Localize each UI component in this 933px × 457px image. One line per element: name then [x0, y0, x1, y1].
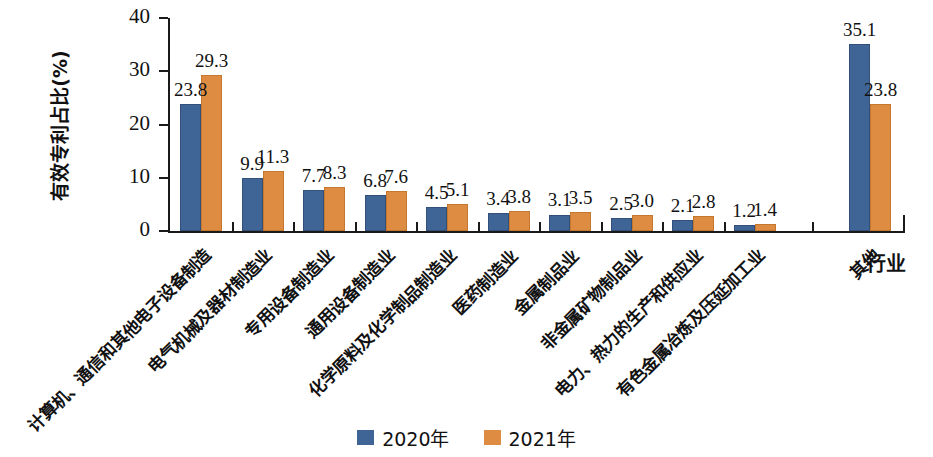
- bar-2020年-有色金属冶炼及压延加工业[interactable]: [734, 225, 755, 231]
- bar-2020年-专用设备制造业[interactable]: [303, 190, 324, 231]
- bar-2020年-医药制造业[interactable]: [488, 213, 509, 231]
- bar-2021年-其他[interactable]: [870, 104, 891, 231]
- legend-item-2020[interactable]: 2020年: [357, 424, 449, 451]
- bar-value-2021年-计算机、通信和其他电子设备制造: 29.3: [186, 51, 238, 70]
- bar-value-2021年-电气机械及器材制造业: 11.3: [247, 147, 299, 166]
- legend-label-2021: 2021年: [509, 424, 576, 451]
- bar-2020年-计算机、通信和其他电子设备制造[interactable]: [180, 104, 201, 231]
- bar-2020年-化学原料及化学制品制造业[interactable]: [426, 207, 447, 231]
- legend-swatch-blue: [357, 430, 374, 445]
- bar-2020年-金属制品业[interactable]: [549, 215, 570, 232]
- bar-2020年-电气机械及器材制造业[interactable]: [242, 178, 263, 231]
- bar-2021年-电力、热力的生产和供应业[interactable]: [693, 216, 714, 231]
- bar-2020年-通用设备制造业[interactable]: [365, 195, 386, 231]
- bar-2021年-金属制品业[interactable]: [570, 212, 591, 231]
- bar-2020年-其他[interactable]: [849, 44, 870, 231]
- legend-item-2021[interactable]: 2021年: [484, 424, 576, 451]
- x-axis-title: 行业: [866, 248, 906, 277]
- bar-2020年-电力、热力的生产和供应业[interactable]: [672, 220, 693, 231]
- bar-chart: 有效专利占比(%) 010203040 23.829.39.911.37.78.…: [0, 0, 933, 457]
- bar-2021年-化学原料及化学制品制造业[interactable]: [447, 204, 468, 231]
- bar-value-2020年-其他: 35.1: [834, 20, 886, 39]
- legend-swatch-orange: [484, 430, 501, 445]
- bar-value-2021年-其他: 23.8: [855, 80, 907, 99]
- bar-2021年-通用设备制造业[interactable]: [386, 191, 407, 231]
- bar-2021年-专用设备制造业[interactable]: [324, 187, 345, 231]
- category-label-5: 医药制造业: [446, 243, 523, 320]
- bar-value-2020年-计算机、通信和其他电子设备制造: 23.8: [165, 80, 217, 99]
- bar-2021年-电气机械及器材制造业[interactable]: [263, 171, 284, 231]
- bar-2021年-有色金属冶炼及压延加工业[interactable]: [755, 224, 776, 231]
- legend-label-2020: 2020年: [382, 424, 449, 451]
- bar-2021年-医药制造业[interactable]: [509, 211, 530, 231]
- bar-2020年-非金属矿物制品业[interactable]: [611, 218, 632, 231]
- legend: 2020年 2021年: [0, 424, 933, 451]
- bar-value-2021年-有色金属冶炼及压延加工业: 1.4: [739, 200, 791, 219]
- bar-2021年-非金属矿物制品业[interactable]: [632, 215, 653, 231]
